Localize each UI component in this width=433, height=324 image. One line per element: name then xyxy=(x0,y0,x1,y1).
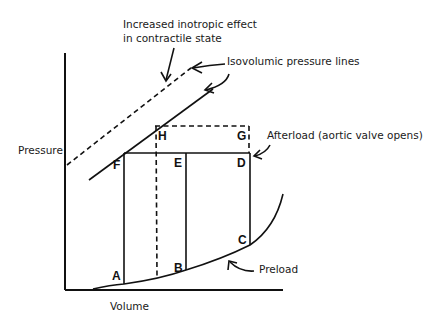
inotropic-label-line1: Increased inotropic effect xyxy=(123,18,257,30)
volume-axis-label: Volume xyxy=(110,300,149,312)
point-d: D xyxy=(237,156,246,170)
inotropic-label-line2: in contractile state xyxy=(123,32,222,44)
point-e: E xyxy=(174,156,182,170)
preload-curve xyxy=(93,194,283,289)
isovolumic-arrow-2 xyxy=(206,74,229,90)
isovolumic-pressure-line xyxy=(89,89,213,180)
preload-arrow-head xyxy=(228,261,237,270)
preload-arrow xyxy=(230,262,254,271)
point-f: F xyxy=(113,158,120,172)
point-a: A xyxy=(112,269,121,283)
h-vertical-dashed-line xyxy=(156,126,157,277)
afterload-arrow xyxy=(255,145,270,156)
point-c: C xyxy=(238,233,247,247)
point-b: B xyxy=(174,261,183,275)
point-g: G xyxy=(237,129,246,143)
afterload-label: Afterload (aortic valve opens) xyxy=(267,129,423,141)
point-h: H xyxy=(158,129,167,143)
pressure-volume-diagram: Increased inotropic effect in contractil… xyxy=(0,0,433,324)
preload-label: Preload xyxy=(259,263,298,275)
isovolumic-label: Isovolumic pressure lines xyxy=(227,55,360,67)
inotropic-arrowhead xyxy=(161,72,171,81)
pressure-axis-label: Pressure xyxy=(18,144,63,156)
